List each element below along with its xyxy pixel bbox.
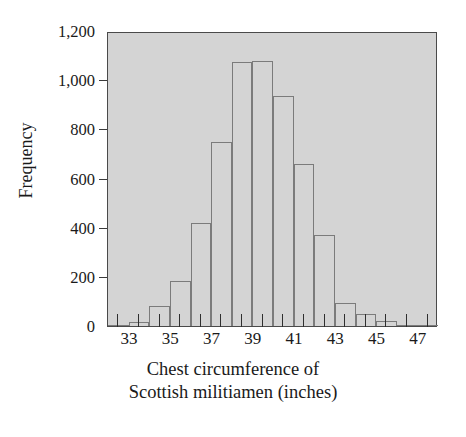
histogram-bar bbox=[294, 164, 315, 326]
y-tick-label: 1,200 bbox=[58, 24, 95, 41]
histogram-bar bbox=[252, 61, 273, 326]
x-tick-label: 45 bbox=[368, 330, 385, 347]
x-tick-label: 41 bbox=[285, 330, 302, 347]
x-tick-label: 35 bbox=[162, 330, 179, 347]
x-tick-mark bbox=[117, 314, 118, 327]
x-tick-mark bbox=[303, 314, 304, 327]
histogram-bar bbox=[149, 306, 170, 326]
histogram-bar bbox=[273, 96, 294, 326]
y-tick-label: 600 bbox=[70, 172, 95, 189]
x-tick-mark bbox=[365, 314, 366, 327]
bar-group bbox=[108, 33, 436, 326]
x-tick-mark bbox=[282, 314, 283, 327]
x-tick-mark bbox=[200, 314, 201, 327]
y-tick-label: 800 bbox=[70, 122, 95, 139]
x-tick-label: 43 bbox=[327, 330, 344, 347]
x-tick-label: 47 bbox=[409, 330, 426, 347]
x-tick-mark bbox=[220, 314, 221, 327]
histogram-figure: Frequency 02004006008001,0001,200 333537… bbox=[0, 0, 466, 437]
histogram-bar bbox=[376, 321, 397, 326]
x-tick-mark bbox=[406, 314, 407, 327]
y-tick-label: 1,000 bbox=[58, 73, 95, 90]
histogram-bar bbox=[356, 314, 377, 326]
plot-area bbox=[107, 32, 437, 327]
x-tick-mark bbox=[427, 314, 428, 327]
y-tick-label: 200 bbox=[70, 270, 95, 287]
x-tick-mark bbox=[179, 314, 180, 327]
x-tick-mark bbox=[138, 314, 139, 327]
histogram-bar bbox=[170, 281, 191, 326]
x-tick-mark bbox=[262, 314, 263, 327]
histogram-bar bbox=[108, 325, 129, 326]
y-tick-label: 0 bbox=[87, 319, 95, 336]
y-axis-title: Frequency bbox=[16, 91, 37, 231]
x-tick-mark bbox=[324, 314, 325, 327]
x-tick-label: 33 bbox=[120, 330, 137, 347]
x-axis-title-line-1: Chest circumference of bbox=[0, 358, 466, 381]
histogram-bar bbox=[417, 325, 438, 326]
x-tick-mark bbox=[159, 314, 160, 327]
x-axis-title: Chest circumference of Scottish militiam… bbox=[0, 358, 466, 404]
x-tick-mark bbox=[241, 314, 242, 327]
histogram-bar bbox=[335, 303, 356, 326]
histogram-bar bbox=[129, 322, 150, 326]
x-tick-label: 37 bbox=[203, 330, 220, 347]
x-tick-label: 39 bbox=[244, 330, 261, 347]
y-tick-label: 400 bbox=[70, 221, 95, 238]
histogram-bar bbox=[191, 223, 212, 326]
x-tick-mark bbox=[344, 314, 345, 327]
histogram-bar bbox=[211, 142, 232, 326]
histogram-bar bbox=[232, 62, 253, 326]
histogram-bar bbox=[314, 235, 335, 326]
x-tick-mark bbox=[385, 314, 386, 327]
x-axis-title-line-2: Scottish militiamen (inches) bbox=[0, 381, 466, 404]
histogram-bar bbox=[397, 325, 418, 326]
